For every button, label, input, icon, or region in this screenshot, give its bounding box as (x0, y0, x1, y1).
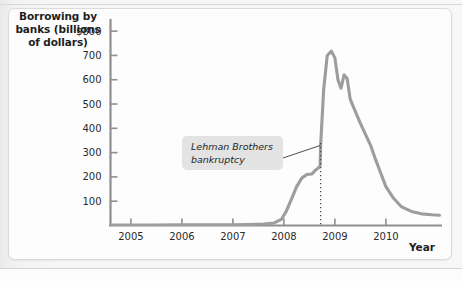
y-axis-tick-label: 100 (82, 196, 101, 207)
x-axis-tick-label: 2005 (118, 231, 143, 242)
y-axis-tick-label: 200 (82, 171, 101, 182)
y-axis-tick-label: 700 (82, 50, 101, 61)
x-axis-tick-label: 2009 (322, 231, 347, 242)
y-axis-tick-label: 500 (82, 99, 101, 110)
chart-figure: Borrowing by banks (billions of dollars)… (0, 0, 462, 281)
y-axis-tick-label: 400 (82, 123, 101, 134)
y-axis-tick-label: 300 (82, 147, 101, 158)
y-axis-tick-labels: $800700600500400300200100 (76, 26, 101, 207)
x-axis-tick-label: 2010 (373, 231, 398, 242)
annotation-leader-line (283, 145, 321, 158)
x-axis-title: Year (408, 241, 436, 253)
annotation-line-1: Lehman Brothers (191, 141, 273, 152)
x-axis-tick-labels: 200520062007200820092010 (118, 231, 398, 242)
y-axis-tick-label: 600 (82, 74, 101, 85)
x-axis-tick-label: 2006 (169, 231, 194, 242)
x-axis-tick-label: 2008 (271, 231, 296, 242)
annotation-line-2: bankruptcy (191, 154, 245, 165)
x-axis-tick-label: 2007 (220, 231, 245, 242)
y-axis-tick-label: $800 (76, 26, 101, 37)
plot-area: $800700600500400300200100 20052006200720… (0, 0, 462, 281)
